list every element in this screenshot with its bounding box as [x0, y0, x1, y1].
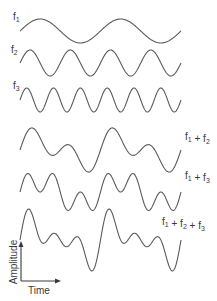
- x-axis-label: Time: [28, 285, 50, 296]
- waveform-diagram: f1f2f3f1 + f2f1 + f3f1 + f2 + f3 Amplitu…: [0, 0, 217, 301]
- wave-label-f1-plus-f2-plus-f3: f1 + f2 + f3: [162, 216, 205, 232]
- wave-f3: [20, 88, 181, 112]
- wave-label-f3: f3: [13, 80, 20, 92]
- wave-f2: [20, 50, 181, 76]
- waves-group: [20, 19, 181, 271]
- wave-f1-plus-f2-plus-f3: [20, 209, 181, 271]
- wave-f1: [20, 19, 181, 43]
- wave-f1-plus-f2: [20, 128, 181, 172]
- wave-label-f1-plus-f3: f1 + f3: [185, 170, 210, 184]
- wave-labels: f1f2f3f1 + f2f1 + f3f1 + f2 + f3: [11, 11, 210, 232]
- wave-label-f1-plus-f2: f1 + f2: [185, 131, 210, 145]
- axes: Amplitude Time: [8, 239, 61, 296]
- x-axis-arrow-icon: [55, 279, 61, 284]
- y-axis-arrow-icon: [19, 241, 24, 247]
- wave-f1-plus-f3: [20, 174, 181, 211]
- wave-label-f1: f1: [13, 11, 20, 23]
- wave-label-f2: f2: [11, 44, 18, 56]
- y-axis-label: Amplitude: [8, 239, 19, 284]
